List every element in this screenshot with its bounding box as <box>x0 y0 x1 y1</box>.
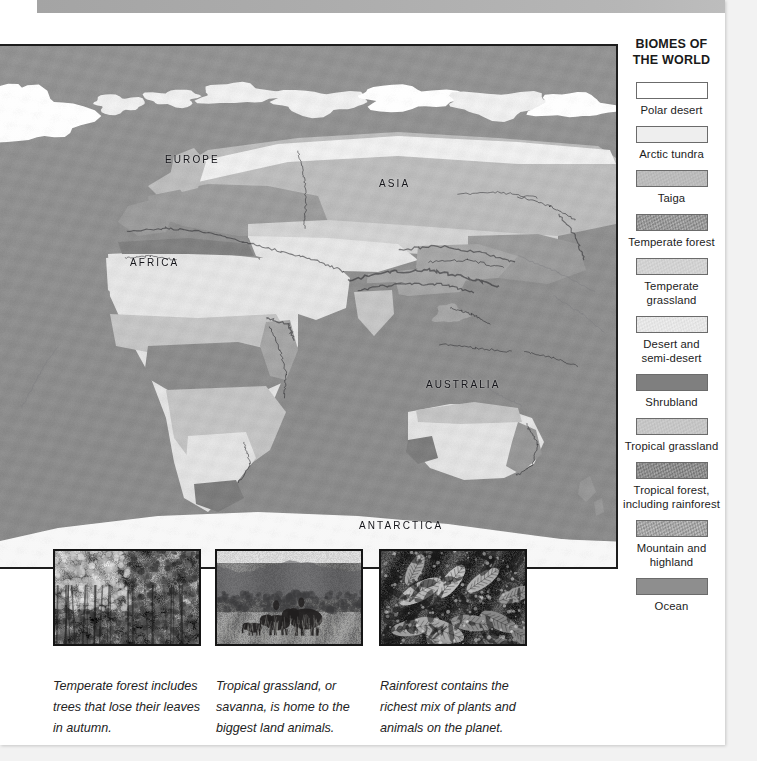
legend-swatch-shrubland <box>636 374 708 391</box>
legend-swatch-texture-ocean <box>637 579 707 594</box>
legend-swatch-texture-temperate-grassland <box>637 259 707 274</box>
top-header-bar <box>37 0 725 13</box>
legend-label-polar-desert: Polar desert <box>618 103 725 117</box>
legend-label-tropical-grassland: Tropical grassland <box>618 439 725 453</box>
legend-label-tropical-forest: Tropical forest,including rainforest <box>618 483 725 511</box>
legend-item-tropical-forest[interactable]: Tropical forest,including rainforest <box>618 462 725 511</box>
legend-item-mountain-highland[interactable]: Mountain andhighland <box>618 520 725 569</box>
legend-item-temperate-grassland[interactable]: Temperate grassland <box>618 258 725 307</box>
legend-label-shrubland: Shrubland <box>618 395 725 409</box>
page-sheet: EUROPE ASIA AFRICA AUSTRALIA ANTARCTICA … <box>0 0 725 745</box>
photo-temperate-forest[interactable] <box>53 549 201 646</box>
legend-item-tropical-grassland[interactable]: Tropical grassland <box>618 418 725 453</box>
legend-swatch-texture-desert-semi-desert <box>637 317 707 332</box>
legend-swatch-tropical-forest <box>636 462 708 479</box>
legend-swatch-texture-tropical-grassland <box>637 419 707 434</box>
legend-swatch-desert-semi-desert <box>636 316 708 333</box>
legend-label-temperate-grassland: Temperate grassland <box>618 279 725 307</box>
legend-label-arctic-tundra: Arctic tundra <box>618 147 725 161</box>
legend-item-arctic-tundra[interactable]: Arctic tundra <box>618 126 725 161</box>
legend-title-line2: THE WORLD <box>618 52 725 68</box>
legend-swatch-texture-mountain-highland <box>637 521 707 536</box>
legend-label-desert-semi-desert: Desert andsemi-desert <box>618 337 725 365</box>
legend-item-shrubland[interactable]: Shrubland <box>618 374 725 409</box>
legend-item-list: Polar desertArctic tundraTaigaTemperate … <box>618 82 725 613</box>
world-biome-map[interactable]: EUROPE ASIA AFRICA AUSTRALIA ANTARCTICA <box>0 44 618 569</box>
caption-tropical-grassland: Tropical grassland, or savanna, is home … <box>216 676 368 739</box>
legend-swatch-mountain-highland <box>636 520 708 537</box>
legend-swatch-tropical-grassland <box>636 418 708 435</box>
legend-swatch-texture-arctic-tundra <box>637 127 707 142</box>
photo-temperate-forest-image <box>55 551 201 646</box>
legend-swatch-temperate-forest <box>636 214 708 231</box>
legend-swatch-texture-taiga <box>637 171 707 186</box>
legend-label-temperate-forest: Temperate forest <box>618 235 725 249</box>
photo-rainforest[interactable] <box>379 549 527 646</box>
caption-temperate-forest: Temperate forest includes trees that los… <box>53 676 205 739</box>
legend-item-taiga[interactable]: Taiga <box>618 170 725 205</box>
legend-item-polar-desert[interactable]: Polar desert <box>618 82 725 117</box>
map-legend: BIOMES OF THE WORLD Polar desertArctic t… <box>618 36 725 622</box>
legend-swatch-ocean <box>636 578 708 595</box>
legend-title: BIOMES OF THE WORLD <box>618 36 725 68</box>
legend-item-temperate-forest[interactable]: Temperate forest <box>618 214 725 249</box>
legend-swatch-texture-tropical-forest <box>637 463 707 478</box>
legend-title-line1: BIOMES OF <box>618 36 725 52</box>
map-raster <box>0 46 616 567</box>
photo-tropical-grassland-image <box>217 551 363 646</box>
legend-swatch-texture-shrubland <box>637 375 707 390</box>
legend-swatch-polar-desert <box>636 82 708 99</box>
photo-tropical-grassland[interactable] <box>215 549 363 646</box>
legend-swatch-texture-temperate-forest <box>637 215 707 230</box>
legend-swatch-texture-polar-desert <box>637 83 707 98</box>
legend-item-desert-semi-desert[interactable]: Desert andsemi-desert <box>618 316 725 365</box>
legend-label-taiga: Taiga <box>618 191 725 205</box>
photo-rainforest-image <box>381 551 527 646</box>
legend-label-mountain-highland: Mountain andhighland <box>618 541 725 569</box>
legend-swatch-arctic-tundra <box>636 126 708 143</box>
legend-item-ocean[interactable]: Ocean <box>618 578 725 613</box>
caption-rainforest: Rainforest contains the richest mix of p… <box>380 676 532 739</box>
legend-swatch-temperate-grassland <box>636 258 708 275</box>
legend-swatch-taiga <box>636 170 708 187</box>
legend-label-ocean: Ocean <box>618 599 725 613</box>
